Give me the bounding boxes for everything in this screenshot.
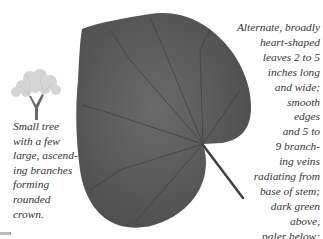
leaf-description: Alternate, broadly heart-shaped leaves 2… (210, 20, 320, 239)
tree-description: Small tree with a few large, ascend- ing… (13, 119, 83, 221)
corner-mark (0, 232, 11, 235)
